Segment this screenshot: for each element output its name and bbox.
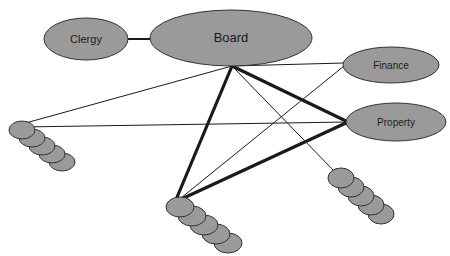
- node-shape-board: [150, 10, 312, 66]
- network-canvas: ClergyBoardFinanceProperty: [0, 0, 450, 256]
- network-diagram: ClergyBoardFinanceProperty: [0, 0, 450, 256]
- edge-board-to-cluster-left: [22, 66, 232, 124]
- disc-cluster: [328, 168, 394, 224]
- node-shape-finance: [343, 47, 439, 83]
- edge-board-to-cluster-right: [232, 66, 335, 172]
- node-clergy[interactable]: Clergy: [44, 18, 128, 60]
- edge-board-to-cluster-bottom: [175, 66, 232, 202]
- disc-cluster: [166, 197, 242, 253]
- edge-property-to-cluster-bottom: [175, 122, 348, 202]
- cluster-disc: [166, 197, 194, 217]
- cluster-disc: [9, 121, 35, 139]
- cluster-disc: [328, 168, 354, 188]
- edge-property-to-cluster-left: [22, 122, 348, 127]
- node-finance[interactable]: Finance: [343, 47, 439, 83]
- nodes-layer: ClergyBoardFinanceProperty: [44, 10, 446, 141]
- edges-layer: [22, 39, 348, 202]
- disc-cluster: [9, 121, 75, 171]
- node-shape-clergy: [44, 18, 128, 60]
- node-shape-property: [346, 103, 446, 141]
- edge-board-to-property: [232, 66, 348, 122]
- node-property[interactable]: Property: [346, 103, 446, 141]
- node-board[interactable]: Board: [150, 10, 312, 66]
